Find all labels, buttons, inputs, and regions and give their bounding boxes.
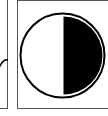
left-curve (0, 60, 8, 70)
diagram-svg (0, 0, 108, 116)
filled-half-disc (64, 17, 103, 95)
